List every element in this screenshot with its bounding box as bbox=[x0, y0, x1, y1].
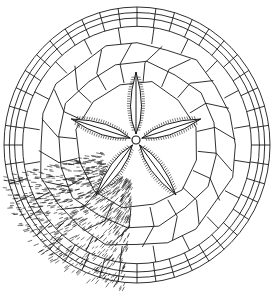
test-plates bbox=[4, 7, 270, 283]
petaloid-ambulacra bbox=[71, 72, 200, 195]
apical-disc bbox=[132, 136, 140, 144]
sand-dollar-illustration bbox=[0, 0, 275, 291]
sand-dollar-drawing bbox=[0, 0, 275, 291]
